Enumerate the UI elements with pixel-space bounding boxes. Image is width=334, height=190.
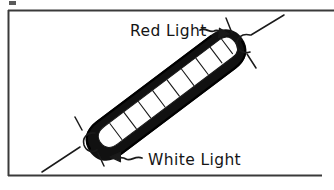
top-left-tick-mark	[9, 1, 16, 5]
diagram-canvas: Red Light White Light	[0, 0, 334, 190]
white-light-label: White Light	[148, 151, 241, 169]
figure-container: Red Light White Light	[0, 0, 334, 190]
red-light-label: Red Light	[130, 22, 207, 40]
